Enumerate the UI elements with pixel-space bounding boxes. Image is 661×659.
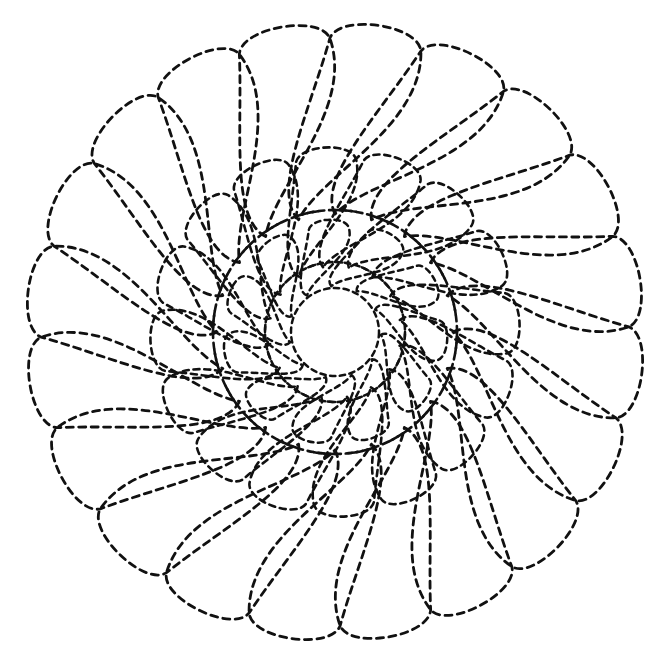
stencil-canvas [0,0,661,659]
feathered-rose-drawing [0,0,661,659]
paper-background [0,0,661,659]
